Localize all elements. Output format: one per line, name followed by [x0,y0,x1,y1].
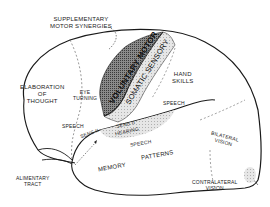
label-text: THOUGHT [20,98,64,105]
label-supplementary-motor: SUPPLEMENTARY MOTOR SYNERGIES [50,16,112,30]
label-speech-parietal: SPEECH [163,101,185,107]
label-text: VISION [192,186,238,192]
brain-diagram: SUPPLEMENTARY MOTOR SYNERGIES ELABORATIO… [0,0,270,207]
label-alimentary-tract: ALIMENTARY TRACT [16,176,50,187]
label-contralateral-vision: CONTRALATERAL VISION [192,180,238,191]
label-speech-frontal: SPEECH [62,124,84,130]
label-text: HAND [172,71,194,78]
label-text: TURNING [73,96,97,102]
label-text: SUPPLEMENTARY [50,16,112,23]
label-text: SKILLS [172,78,194,85]
frontal-lower-outline [24,100,75,163]
label-text: OF [20,91,64,98]
label-hand-skills: HAND SKILLS [172,71,194,85]
label-eye-turning: EYE TURNING [73,90,97,101]
label-elaboration-of-thought: ELABORATION OF THOUGHT [20,84,64,105]
label-text: TRACT [16,182,50,188]
label-text: MOTOR SYNERGIES [50,23,112,30]
label-text: ELABORATION [20,84,64,91]
